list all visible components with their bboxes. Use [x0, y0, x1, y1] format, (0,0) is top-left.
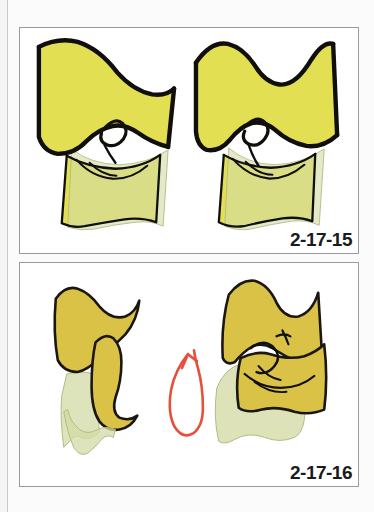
figure-bottom-illustration [20, 263, 358, 486]
figure-top-illustration [20, 28, 358, 253]
figure-label-bottom: 2-17-16 [290, 463, 352, 484]
top-right-specimen [196, 43, 337, 229]
top-left-specimen [38, 40, 174, 230]
figure-label-top: 2-17-15 [290, 230, 352, 251]
figure-page: 2-17-15 [0, 0, 374, 512]
bottom-right-specimen [215, 281, 326, 443]
rotation-arrow-icon [170, 350, 203, 435]
page-binding-line [7, 0, 8, 512]
bottom-left-specimen [55, 288, 140, 455]
figure-panel-top: 2-17-15 [19, 27, 359, 254]
figure-panel-bottom: 2-17-16 [19, 262, 359, 487]
page-binding-shade [0, 0, 7, 512]
